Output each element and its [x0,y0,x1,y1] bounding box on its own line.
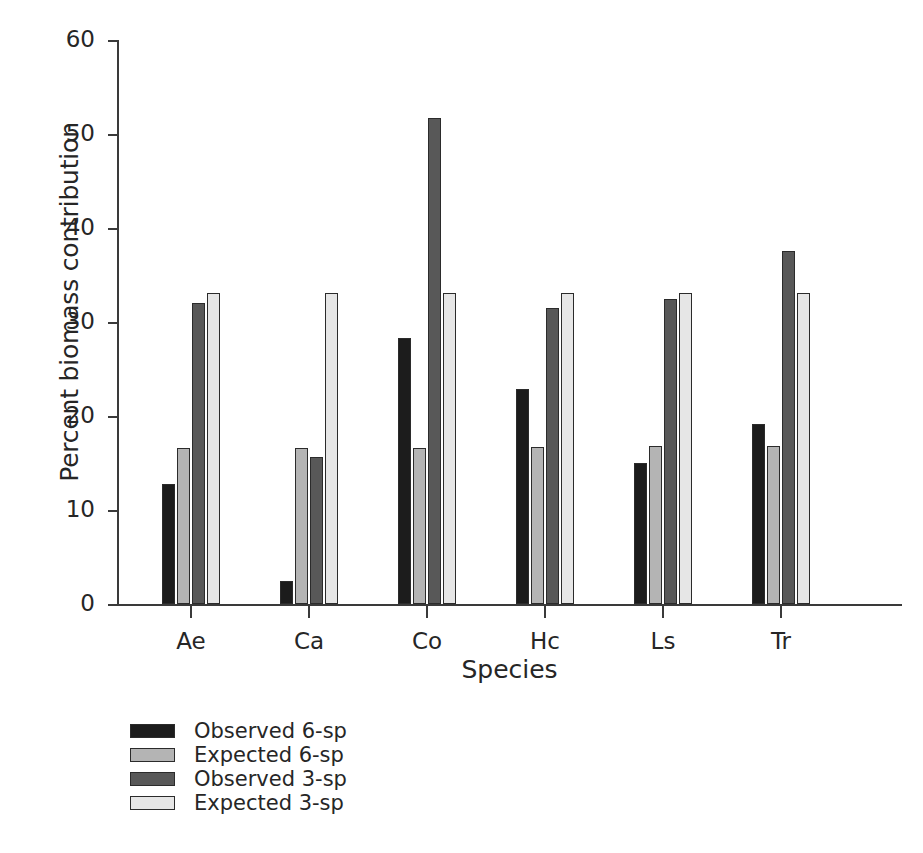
bar [531,447,544,604]
x-axis-line [117,604,902,606]
y-axis-tick-label: 40 [66,214,95,240]
y-axis-tick: 40 [108,228,117,230]
bar [752,424,765,604]
y-axis-tick: 50 [108,134,117,136]
y-axis-tick-label: 0 [80,590,95,616]
legend-item: Observed 3-sp [130,767,347,791]
bar [767,446,780,604]
y-axis-tick: 0 [108,604,117,606]
bar [310,457,323,604]
bar [797,293,810,604]
y-axis-tick-label: 20 [66,402,95,428]
legend-swatch [130,724,175,738]
legend-swatch [130,748,175,762]
chart-legend: Observed 6-spExpected 6-spObserved 3-spE… [130,719,347,815]
bar [325,293,338,604]
legend-swatch [130,772,175,786]
x-axis-tick-label: Tr [771,628,791,654]
x-axis-tick-label: Hc [530,628,560,654]
plot-area: 0102030405060 AeCaCoHcLsTr [117,40,902,604]
bar [679,293,692,604]
bar [413,448,426,604]
legend-label: Observed 6-sp [194,719,347,743]
y-axis-tick: 60 [108,40,117,42]
x-axis-tick [190,606,192,618]
y-axis-line [117,40,119,604]
y-axis-tick-label: 10 [66,496,95,522]
bar [280,581,293,604]
bar [664,299,677,604]
x-axis-tick [544,606,546,618]
x-axis-tick [308,606,310,618]
legend-swatch [130,796,175,810]
x-axis-tick [426,606,428,618]
x-axis-tick-label: Ae [176,628,205,654]
x-axis-tick [780,606,782,618]
x-axis-tick [662,606,664,618]
legend-label: Expected 3-sp [194,791,344,815]
bar [295,448,308,604]
bar [546,308,559,604]
bar [561,293,574,604]
bar [634,463,647,604]
x-axis-tick-label: Ls [651,628,676,654]
y-axis-tick-label: 30 [66,308,95,334]
legend-item: Expected 6-sp [130,743,347,767]
bar-chart-figure: Percent biomass contribution 01020304050… [0,0,923,853]
y-axis-tick: 10 [108,510,117,512]
legend-label: Observed 3-sp [194,767,347,791]
bar [177,448,190,604]
y-axis-tick: 20 [108,416,117,418]
bar [192,303,205,604]
bar [649,446,662,604]
bar [428,118,441,604]
y-axis-tick-label: 50 [66,120,95,146]
bar [207,293,220,604]
y-axis-tick-label: 60 [66,26,95,52]
legend-item: Expected 3-sp [130,791,347,815]
legend-label: Expected 6-sp [194,743,344,767]
x-axis-title: Species [117,655,902,684]
legend-item: Observed 6-sp [130,719,347,743]
bar [398,338,411,604]
x-axis-tick-label: Ca [294,628,324,654]
bar [443,293,456,604]
bar [782,251,795,604]
x-axis-tick-label: Co [412,628,442,654]
y-axis-tick: 30 [108,322,117,324]
bar [162,484,175,604]
bar [516,389,529,604]
